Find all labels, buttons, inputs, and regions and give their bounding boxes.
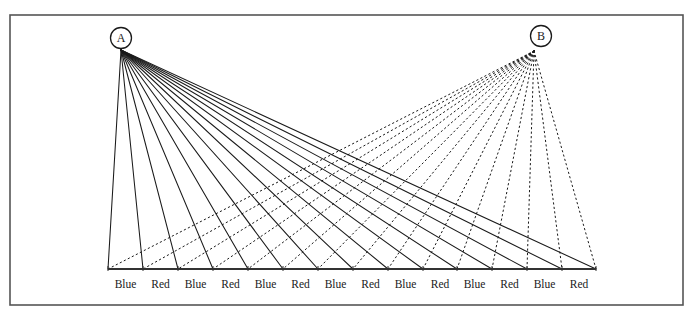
ray-b-9 [423,51,534,269]
figure-frame [10,15,683,305]
axis-label-10: Blue [464,278,486,290]
ray-a-14 [121,50,596,269]
axis-label-5: Red [291,278,310,290]
ray-b-8 [388,51,534,269]
ray-a-13 [121,50,562,269]
ray-a-11 [121,50,492,269]
axis-label-group: BlueRedBlueRedBlueRedBlueRedBlueRedBlueR… [115,278,589,290]
ray-b-14 [534,51,596,269]
ray-b-2 [178,51,534,269]
node-a-label: A [117,31,126,45]
ray-a-8 [121,50,388,269]
ray-a-5 [121,50,283,269]
ray-group-a [108,50,596,269]
ray-fan-svg: A B BlueRedBlueRedBlueRedBlueRedBlueRedB… [0,0,691,317]
ray-a-12 [121,50,527,269]
ray-a-2 [121,50,178,269]
axis-label-2: Blue [185,278,207,290]
axis-label-13: Red [570,278,589,290]
node-a[interactable]: A [111,28,132,49]
ray-a-7 [121,50,353,269]
ray-a-9 [121,50,423,269]
axis-label-11: Red [500,278,519,290]
axis-label-3: Red [221,278,240,290]
axis-label-7: Red [361,278,380,290]
ray-b-4 [248,51,534,269]
axis-label-9: Red [431,278,450,290]
axis-label-12: Blue [534,278,556,290]
ray-b-3 [213,51,534,269]
ray-b-13 [534,51,562,269]
axis-label-4: Blue [255,278,277,290]
ray-group-b [108,51,596,269]
axis-label-0: Blue [115,278,137,290]
ray-b-7 [353,51,534,269]
node-b[interactable]: B [531,26,552,47]
ray-b-1 [143,51,534,269]
ray-a-0 [108,50,121,269]
node-b-label: B [537,29,545,43]
axis-label-1: Red [151,278,170,290]
figure-root: A B BlueRedBlueRedBlueRedBlueRedBlueRedB… [0,0,691,317]
axis-label-6: Blue [325,278,347,290]
axis-label-8: Blue [395,278,417,290]
ray-b-6 [318,51,534,269]
